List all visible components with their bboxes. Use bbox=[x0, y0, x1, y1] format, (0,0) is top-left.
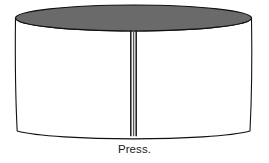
press-illustration bbox=[0, 0, 269, 140]
press-figure: Press. bbox=[0, 0, 269, 163]
figure-caption: Press. bbox=[0, 142, 269, 156]
press-top-disc bbox=[16, 5, 252, 31]
